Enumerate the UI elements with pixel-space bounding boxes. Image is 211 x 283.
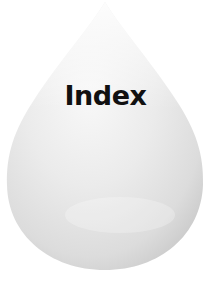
index-drop[interactable]: Index [0, 0, 211, 283]
index-label: Index [0, 80, 211, 111]
water-drop-icon [0, 0, 211, 283]
